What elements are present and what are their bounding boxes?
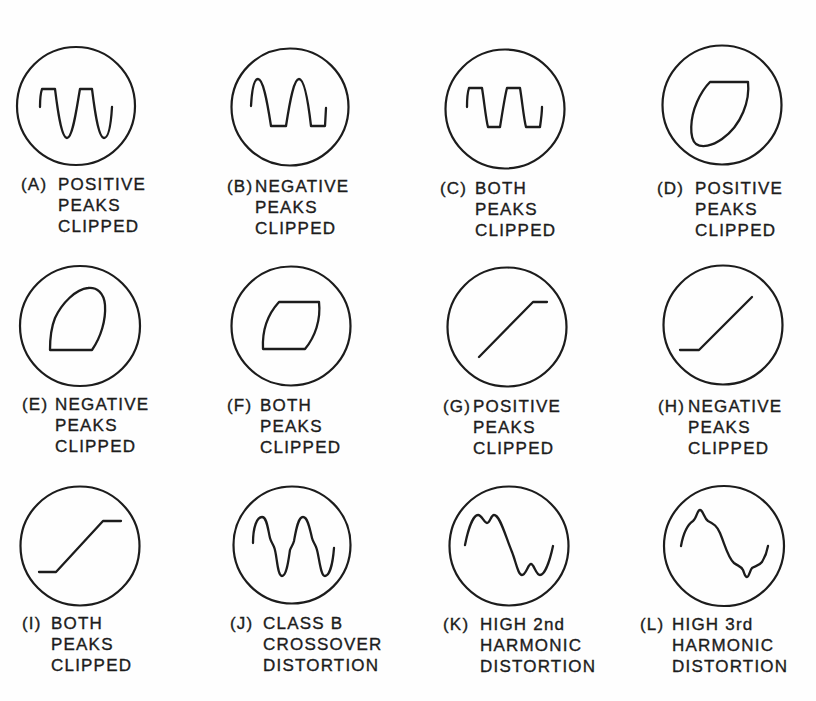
caption-line: POSITIVE — [58, 174, 146, 195]
panel-k-scope — [450, 487, 569, 606]
scope-screen-circle — [446, 50, 565, 169]
caption-line: PEAKS — [51, 634, 132, 655]
caption-letter: (L) — [640, 614, 664, 635]
waveform-crossover-distortion-icon — [253, 517, 334, 576]
caption-line: CLIPPED — [695, 220, 783, 241]
panel-i-scope — [21, 487, 140, 606]
panel-b-scope — [232, 49, 349, 166]
caption-letter: (A) — [21, 174, 47, 195]
caption-line: CLIPPED — [260, 437, 341, 458]
waveform-third-harmonic-icon — [681, 510, 768, 577]
transfer-line-top-clipped-icon — [479, 302, 547, 357]
caption-letter: (I) — [22, 613, 42, 634]
caption-line: CROSSOVER — [263, 634, 382, 655]
transfer-line-bottom-clipped-icon — [680, 297, 752, 350]
oscilloscope-distortion-figure: (A) POSITIVE PEAKS CLIPPED (B) NEGATIVE … — [0, 0, 816, 701]
panel-c-scope — [446, 50, 565, 169]
caption-line: POSITIVE — [695, 178, 783, 199]
caption-line: NEGATIVE — [55, 394, 149, 415]
transfer-line-both-clipped-icon — [39, 521, 121, 572]
caption-letter: (B) — [227, 176, 253, 197]
caption-line: PEAKS — [260, 416, 341, 437]
caption-letter: (G) — [443, 396, 471, 417]
waveform-positive-clipped-icon — [40, 89, 112, 138]
caption-line: BOTH — [51, 613, 132, 634]
caption-line: CLIPPED — [475, 220, 556, 241]
caption-letter: (J) — [230, 613, 253, 634]
caption-line: PEAKS — [473, 417, 561, 438]
caption-line: PEAKS — [475, 199, 556, 220]
ellipse-top-clipped-icon — [691, 82, 748, 146]
caption-line: BOTH — [475, 178, 556, 199]
caption-line: HIGH 2nd — [480, 614, 596, 635]
caption-line: PEAKS — [255, 197, 349, 218]
caption-line: CLIPPED — [55, 436, 149, 457]
panel-d-scope — [663, 46, 782, 165]
panel-a-scope — [17, 47, 135, 165]
panel-l-scope — [664, 486, 784, 606]
waveform-second-harmonic-icon — [465, 515, 553, 575]
caption-letter: (D) — [657, 178, 684, 199]
caption-line: CLIPPED — [473, 438, 561, 459]
caption-line: PEAKS — [58, 195, 146, 216]
panel-h-scope — [664, 266, 783, 385]
waveform-both-clipped-icon — [467, 88, 542, 127]
caption-line: DISTORTION — [263, 655, 382, 676]
caption-line: NEGATIVE — [688, 396, 782, 417]
caption-line: CLIPPED — [51, 655, 132, 676]
scope-patterns — [0, 0, 816, 701]
caption-line: PEAKS — [688, 417, 782, 438]
caption-line: CLIPPED — [58, 216, 146, 237]
caption-line: PEAKS — [695, 199, 783, 220]
caption-line: CLIPPED — [688, 438, 782, 459]
scope-screen-circle — [232, 267, 351, 386]
caption-line: HIGH 3rd — [672, 614, 788, 635]
caption-line: BOTH — [260, 395, 341, 416]
waveform-negative-clipped-icon — [251, 79, 326, 126]
caption-letter: (C) — [440, 178, 467, 199]
caption-line: CLASS B — [263, 613, 382, 634]
caption-line: DISTORTION — [480, 656, 596, 677]
panel-g-scope — [448, 268, 567, 387]
caption-letter: (H) — [658, 396, 685, 417]
caption-line: HARMONIC — [480, 635, 596, 656]
panel-f-scope — [232, 267, 351, 386]
panel-j-scope — [234, 487, 351, 604]
ellipse-bottom-clipped-icon — [50, 288, 105, 350]
caption-line: NEGATIVE — [255, 176, 349, 197]
caption-letter: (F) — [227, 395, 252, 416]
scope-screen-circle — [663, 46, 782, 165]
caption-line: HARMONIC — [672, 635, 788, 656]
caption-line: PEAKS — [55, 415, 149, 436]
caption-letter: (E) — [22, 394, 48, 415]
panel-e-scope — [20, 266, 140, 386]
scope-screen-circle — [20, 266, 140, 386]
ellipse-both-clipped-icon — [263, 302, 319, 349]
caption-letter: (K) — [443, 614, 469, 635]
caption-line: DISTORTION — [672, 656, 788, 677]
caption-line: CLIPPED — [255, 218, 349, 239]
caption-line: POSITIVE — [473, 396, 561, 417]
